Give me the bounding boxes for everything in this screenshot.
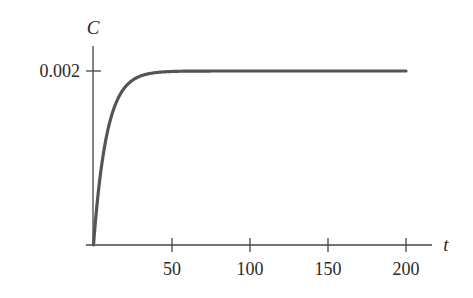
x-axis-label: t — [443, 234, 449, 255]
x-tick-label-150: 150 — [315, 259, 342, 279]
y-tick-label: 0.002 — [40, 61, 81, 81]
y-axis-label: C — [87, 17, 100, 38]
x-tick-label-200: 200 — [393, 259, 420, 279]
x-tick-label-50: 50 — [163, 259, 181, 279]
x-tick-label-100: 100 — [237, 259, 264, 279]
data-curve — [94, 71, 407, 245]
chart: 0.002 50 100 150 200 C t — [0, 0, 473, 298]
